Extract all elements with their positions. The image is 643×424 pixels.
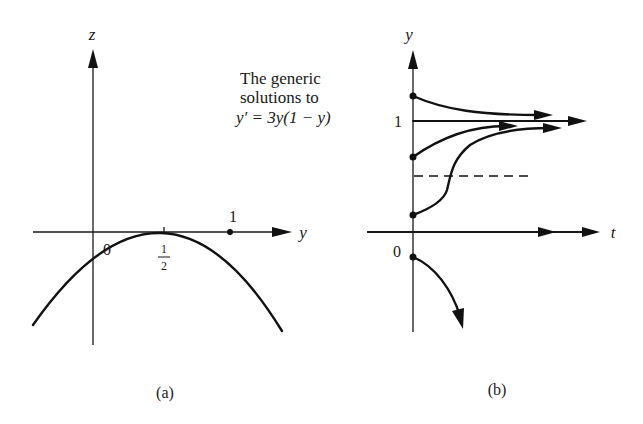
caption-line-3: y′ = 3y(1 − y) xyxy=(234,108,331,127)
t-axis-solution-arrowhead xyxy=(538,227,556,237)
tick-label-zero: 0 xyxy=(103,241,111,258)
t-axis-arrowhead xyxy=(582,227,600,237)
solution-s-curve-arrowhead xyxy=(543,123,562,133)
y-axis-b-label: y xyxy=(403,25,413,44)
initial-dot-below-zero xyxy=(410,254,417,261)
initial-dot-between-half-and-one xyxy=(410,154,417,161)
caption: The generic solutions to y′ = 3y(1 − y) xyxy=(234,69,331,127)
solution-above-one xyxy=(413,96,540,115)
y-axis-a-arrowhead xyxy=(272,227,292,237)
solution-below-zero-arrowhead xyxy=(452,308,464,329)
solution-between-half-and-one xyxy=(413,126,506,157)
solution-above-one-arrowhead xyxy=(534,110,553,120)
caption-line-2: solutions to xyxy=(240,88,319,107)
z-axis-label: z xyxy=(88,25,96,44)
diagram-canvas: z y 0 1 2 1 (a) The generic solutions to… xyxy=(0,0,643,424)
z-axis-arrowhead xyxy=(88,49,98,68)
solution-equilibrium-one-arrowhead xyxy=(568,116,587,126)
equilibrium-dot-one xyxy=(227,229,233,235)
y-axis-b-arrowhead xyxy=(408,50,418,69)
tick-label-half-numerator: 1 xyxy=(161,242,167,256)
panel-a-label: (a) xyxy=(156,384,174,402)
tick-label-half-denominator: 2 xyxy=(161,259,167,273)
caption-line-1: The generic xyxy=(240,69,321,88)
panel-b: y t 1 0 (b) xyxy=(367,25,617,399)
tick-label-b-zero: 0 xyxy=(393,243,401,260)
solution-below-zero xyxy=(413,257,460,316)
initial-dot-above-one xyxy=(410,93,417,100)
initial-dot-s-curve xyxy=(410,212,417,219)
solution-s-curve xyxy=(413,128,550,215)
y-axis-a-label: y xyxy=(297,223,307,242)
t-axis-label: t xyxy=(611,223,617,242)
parabola-curve xyxy=(33,233,282,331)
tick-label-b-one: 1 xyxy=(394,113,402,130)
tick-label-one: 1 xyxy=(229,208,237,225)
panel-b-label: (b) xyxy=(488,381,507,399)
